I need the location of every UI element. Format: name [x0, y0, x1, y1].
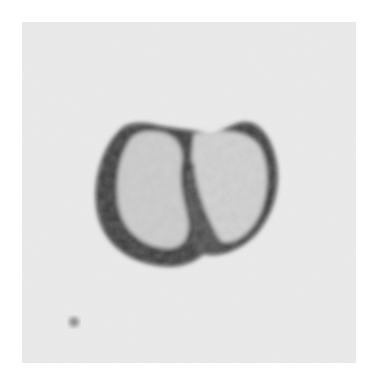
debris-particle	[69, 317, 79, 327]
cell-micrograph	[22, 22, 356, 363]
micrograph-field	[22, 22, 356, 363]
